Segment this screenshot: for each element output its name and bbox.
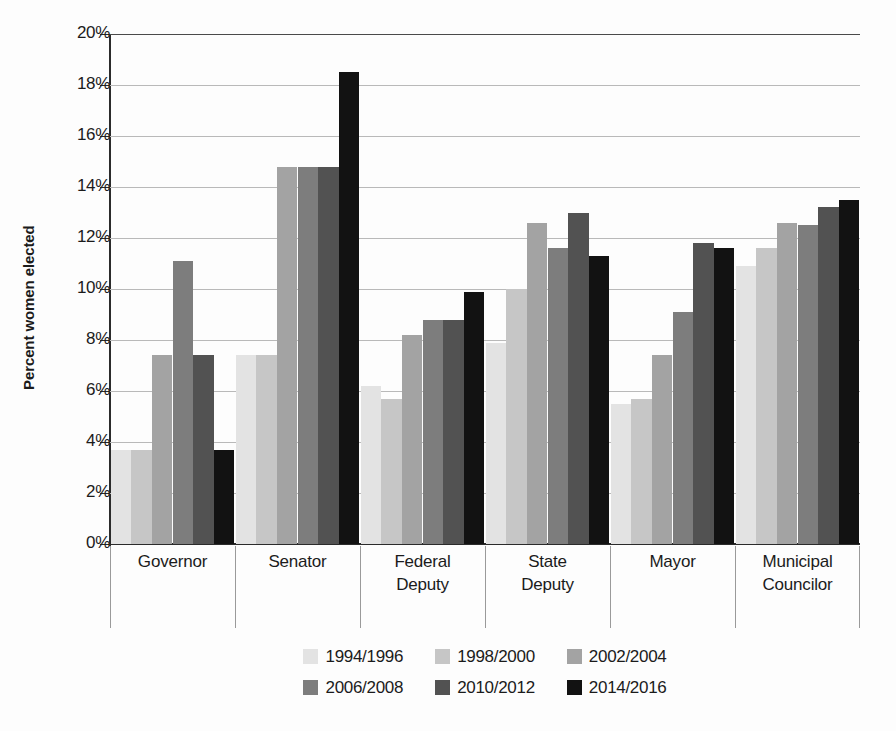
legend-swatch-icon xyxy=(303,680,318,695)
legend-swatch-icon xyxy=(567,680,582,695)
bar xyxy=(152,355,173,544)
bar xyxy=(777,223,798,544)
bar xyxy=(506,289,527,544)
bar xyxy=(193,355,214,544)
x-axis-label: Senator xyxy=(235,550,360,573)
bar xyxy=(839,200,860,544)
x-axis-categories: GovernorSenatorFederalDeputyStateDeputyM… xyxy=(110,546,860,628)
legend-row: 2006/20082010/20122014/2016 xyxy=(110,672,860,703)
legend-label: 2010/2012 xyxy=(457,678,535,698)
legend-item[interactable]: 2006/2008 xyxy=(303,678,403,698)
y-tick-label: 10% xyxy=(18,278,110,298)
bar xyxy=(464,292,485,544)
legend-label: 2002/2004 xyxy=(589,647,667,667)
legend-item[interactable]: 2002/2004 xyxy=(567,647,667,667)
y-tick-label: 12% xyxy=(18,227,110,247)
y-tick-label: 0% xyxy=(18,533,110,553)
y-tick-label: 18% xyxy=(18,74,110,94)
bar xyxy=(486,343,507,544)
legend: 1994/19961998/20002002/20042006/20082010… xyxy=(110,641,860,707)
bar xyxy=(173,261,194,544)
y-tick-label: 8% xyxy=(18,329,110,349)
bar-chart: Percent women elected 0%2%4%6%8%10%12%14… xyxy=(0,0,896,731)
legend-item[interactable]: 2010/2012 xyxy=(435,678,535,698)
bar xyxy=(714,248,735,544)
bar xyxy=(631,399,652,544)
bar xyxy=(111,450,132,544)
bar xyxy=(236,355,257,544)
x-axis-label: MunicipalCouncilor xyxy=(735,550,860,596)
legend-label: 1994/1996 xyxy=(325,647,403,667)
y-tick-label: 2% xyxy=(18,482,110,502)
bar xyxy=(736,266,757,544)
bar xyxy=(402,335,423,544)
bar xyxy=(548,248,569,544)
bar xyxy=(673,312,694,544)
legend-row: 1994/19961998/20002002/2004 xyxy=(110,641,860,672)
bar xyxy=(214,450,235,544)
legend-swatch-icon xyxy=(435,680,450,695)
bar xyxy=(298,167,319,544)
bar-group xyxy=(360,34,485,544)
y-axis-ticks: 0%2%4%6%8%10%12%14%16%18%20% xyxy=(0,0,110,731)
y-tick-label: 20% xyxy=(18,23,110,43)
bar xyxy=(361,386,382,544)
bar xyxy=(798,225,819,544)
bar xyxy=(527,223,548,544)
bar-group xyxy=(735,34,860,544)
bar-group xyxy=(110,34,235,544)
legend-label: 2006/2008 xyxy=(325,678,403,698)
bar xyxy=(443,320,464,544)
bar-group xyxy=(235,34,360,544)
bar xyxy=(277,167,298,544)
plot-area xyxy=(110,34,860,544)
bar xyxy=(818,207,839,544)
y-tick-label: 16% xyxy=(18,125,110,145)
bar xyxy=(339,72,360,544)
bar xyxy=(318,167,339,544)
bar xyxy=(693,243,714,544)
bar xyxy=(381,399,402,544)
bar xyxy=(131,450,152,544)
legend-item[interactable]: 1994/1996 xyxy=(303,647,403,667)
bar xyxy=(568,213,589,545)
bar xyxy=(756,248,777,544)
bar xyxy=(256,355,277,544)
x-axis-label: StateDeputy xyxy=(485,550,610,596)
x-axis-label: FederalDeputy xyxy=(360,550,485,596)
legend-swatch-icon xyxy=(567,649,582,664)
y-tick-label: 4% xyxy=(18,431,110,451)
bar-group xyxy=(610,34,735,544)
bar xyxy=(611,404,632,544)
legend-item[interactable]: 1998/2000 xyxy=(435,647,535,667)
y-tick-label: 6% xyxy=(18,380,110,400)
legend-swatch-icon xyxy=(303,649,318,664)
legend-item[interactable]: 2014/2016 xyxy=(567,678,667,698)
bar xyxy=(423,320,444,544)
legend-label: 1998/2000 xyxy=(457,647,535,667)
x-axis-label: Governor xyxy=(110,550,235,573)
x-axis-label: Mayor xyxy=(610,550,735,573)
legend-label: 2014/2016 xyxy=(589,678,667,698)
bar xyxy=(589,256,610,544)
bar xyxy=(652,355,673,544)
legend-swatch-icon xyxy=(435,649,450,664)
bar-group xyxy=(485,34,610,544)
y-tick-label: 14% xyxy=(18,176,110,196)
